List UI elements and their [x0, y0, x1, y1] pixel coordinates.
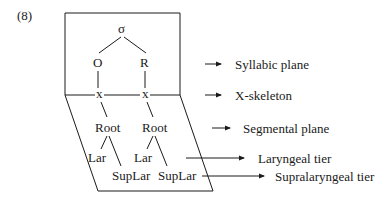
rhyme-node: R	[140, 56, 149, 69]
x-slot-2: x	[142, 87, 149, 100]
supralaryngeal-tier-label: Supralaryngeal tier	[275, 170, 374, 183]
syllabic-plane-label: Syllabic plane	[235, 58, 309, 71]
root-node-2: Root	[142, 121, 167, 134]
onset-node: O	[93, 56, 102, 69]
lar-node-2: Lar	[134, 151, 152, 164]
example-number: (8)	[17, 9, 32, 22]
suplar-node-2: SupLar	[158, 169, 196, 182]
x-slot-1: x	[96, 87, 103, 100]
root-node-1: Root	[95, 121, 120, 134]
laryngeal-tier-label: Laryngeal tier	[258, 152, 331, 165]
segmental-plane-left-edge	[65, 95, 98, 191]
x-skeleton-label: X-skeleton	[235, 89, 292, 102]
sigma-node: σ	[118, 22, 125, 35]
segmental-plane-label: Segmental plane	[243, 122, 329, 135]
suplar-node-1: SupLar	[112, 169, 150, 182]
lar-node-1: Lar	[88, 151, 106, 164]
